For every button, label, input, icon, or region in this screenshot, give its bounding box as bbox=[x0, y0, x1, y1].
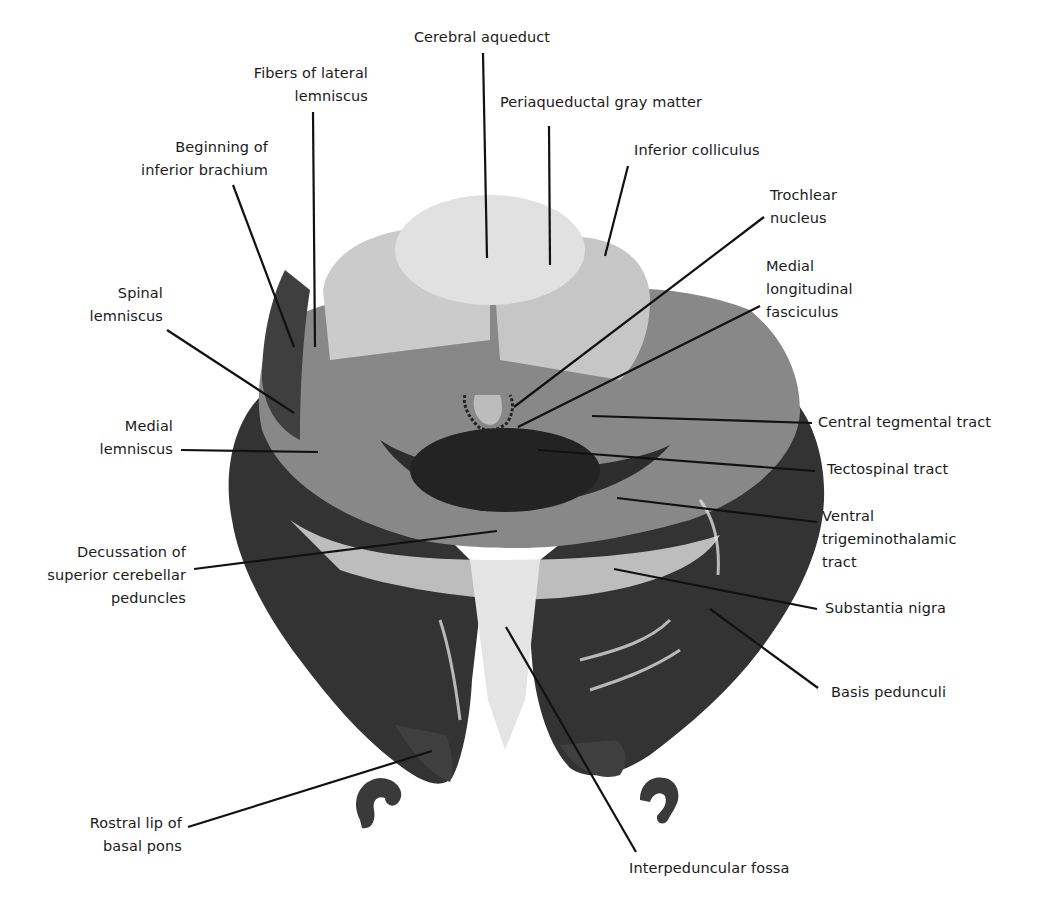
label-decussation-superior-cerebellar-peduncles: Decussation of superior cerebellar pedun… bbox=[10, 541, 186, 610]
label-basis-pedunculi: Basis pedunculi bbox=[831, 681, 946, 704]
label-trochlear-nucleus: Trochlear nucleus bbox=[770, 184, 837, 230]
label-beginning-inferior-brachium: Beginning of inferior brachium bbox=[110, 136, 268, 182]
label-spinal-lemniscus: Spinal lemniscus bbox=[60, 282, 163, 328]
label-inferior-colliculus: Inferior colliculus bbox=[634, 139, 760, 162]
label-periaqueductal-gray: Periaqueductal gray matter bbox=[500, 91, 702, 114]
label-substantia-nigra: Substantia nigra bbox=[825, 597, 946, 620]
label-central-tegmental-tract: Central tegmental tract bbox=[818, 411, 991, 434]
leader-inferior-brachium bbox=[233, 185, 294, 347]
label-interpeduncular-fossa: Interpeduncular fossa bbox=[629, 857, 789, 880]
label-medial-longitudinal-fasciculus: Medial longitudinal fasciculus bbox=[766, 255, 853, 324]
label-cerebral-aqueduct: Cerebral aqueduct bbox=[392, 26, 572, 49]
periaqueductal-gray bbox=[395, 195, 585, 305]
label-fibers-lateral-lemniscus: Fibers of lateral lemniscus bbox=[200, 62, 368, 108]
label-rostral-lip-basal-pons: Rostral lip of basal pons bbox=[20, 812, 182, 858]
interpeduncular-wedge bbox=[470, 560, 540, 750]
label-medial-lemniscus: Medial lemniscus bbox=[60, 415, 173, 461]
label-tectospinal-tract: Tectospinal tract bbox=[827, 458, 948, 481]
right-pons-curl bbox=[640, 777, 678, 823]
left-pons-curl bbox=[356, 778, 401, 828]
leader-inferior-colliculus bbox=[605, 166, 628, 256]
dark-core bbox=[410, 428, 600, 512]
midbrain-section-figure: Cerebral aqueduct Fibers of lateral lemn… bbox=[0, 0, 1052, 897]
label-ventral-trigeminothalamic-tract: Ventral trigeminothalamic tract bbox=[822, 505, 957, 574]
leader-periaqueductal-gray bbox=[549, 126, 550, 265]
